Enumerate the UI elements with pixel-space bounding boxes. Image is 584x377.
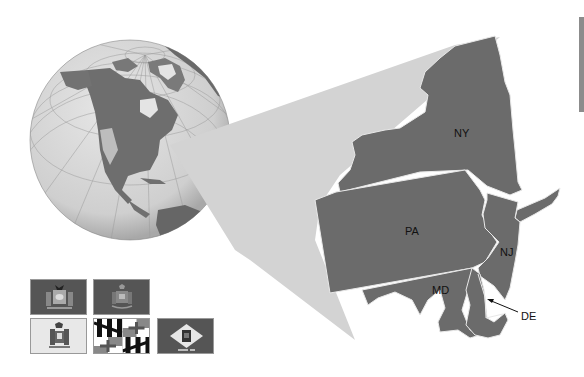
ny-coat-of-arms-icon <box>31 280 87 315</box>
de-diamond-seal-icon <box>158 319 214 354</box>
map-canvas <box>0 0 584 377</box>
state-label-pa: PA <box>405 226 419 237</box>
flag-ny[interactable] <box>30 279 87 315</box>
md-calvert-crossland-icon <box>94 319 150 354</box>
pa-coat-of-arms-icon <box>94 280 150 315</box>
edge-scrollbar[interactable] <box>579 17 584 112</box>
flag-nj[interactable] <box>30 318 87 354</box>
long-island <box>515 188 560 222</box>
nj-coat-of-arms-icon <box>31 319 87 354</box>
flag-pa[interactable] <box>93 279 150 315</box>
state-label-ny: NY <box>454 128 469 139</box>
state-label-nj: NJ <box>500 247 513 258</box>
flag-md[interactable] <box>93 318 150 354</box>
state-label-de: DE <box>521 311 536 322</box>
state-label-md: MD <box>432 285 449 296</box>
de-pointer-arrow <box>487 299 518 312</box>
flag-de[interactable] <box>157 318 214 354</box>
